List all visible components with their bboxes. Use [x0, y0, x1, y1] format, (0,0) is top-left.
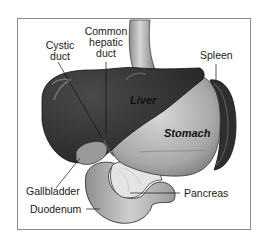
- callout-common-hepatic-duct: Common hepatic duct: [82, 26, 130, 59]
- callout-cystic-duct: Cystic duct: [38, 40, 82, 62]
- esophagus-shape: [129, 20, 156, 72]
- callout-gallbladder: Gallbladder: [26, 186, 80, 197]
- liver-label: Liver: [130, 94, 156, 106]
- leader-gallbladder: [56, 158, 80, 188]
- stomach-label: Stomach: [164, 127, 210, 139]
- callout-spleen: Spleen: [200, 50, 233, 61]
- callout-duodenum: Duodenum: [30, 204, 81, 215]
- callout-pancreas: Pancreas: [184, 188, 228, 199]
